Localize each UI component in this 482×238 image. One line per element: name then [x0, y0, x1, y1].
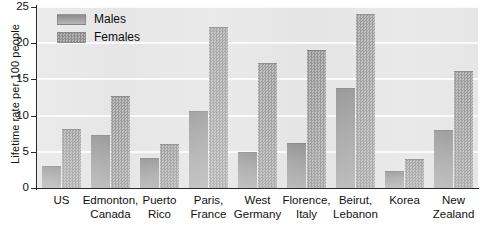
bar-males-8 — [434, 130, 454, 188]
y-tick-mark — [31, 152, 36, 153]
gridline — [37, 7, 478, 8]
y-tick-label: 5 — [0, 146, 29, 158]
legend-label-females: Females — [94, 31, 140, 43]
bar-females-0 — [62, 129, 82, 188]
females-swatch-icon — [57, 32, 86, 43]
legend-item-females: Females — [57, 29, 140, 45]
bar-males-7 — [385, 171, 405, 188]
bar-females-2 — [160, 144, 180, 188]
bar-females-1 — [111, 96, 131, 188]
y-tick-label: 0 — [0, 182, 29, 194]
y-tick-label: 20 — [0, 37, 29, 49]
y-tick-mark — [31, 188, 36, 189]
legend-item-males: Males — [57, 11, 140, 27]
bar-females-3 — [209, 27, 229, 188]
y-tick-label: 10 — [0, 110, 29, 122]
bar-males-5 — [287, 143, 307, 188]
bar-males-0 — [42, 166, 62, 188]
bar-males-3 — [189, 111, 209, 188]
males-swatch-icon — [57, 14, 86, 25]
bar-females-5 — [307, 50, 327, 188]
bar-males-6 — [336, 88, 356, 188]
bar-females-8 — [454, 71, 474, 188]
x-axis-label-8: NewZealand — [421, 194, 482, 221]
chart-legend: Males Females — [57, 11, 140, 47]
bar-males-1 — [91, 135, 111, 188]
y-tick-mark — [31, 7, 36, 8]
bar-males-4 — [238, 152, 258, 188]
legend-label-males: Males — [94, 13, 126, 25]
y-tick-label: 15 — [0, 73, 29, 85]
y-tick-mark — [31, 116, 36, 117]
bar-chart: Lifetime rate per 100 people 0510152025 … — [0, 0, 482, 238]
bar-females-7 — [405, 159, 425, 188]
x-axis-line — [33, 188, 479, 189]
bar-males-2 — [140, 158, 160, 188]
bar-females-6 — [356, 14, 376, 188]
y-tick-mark — [31, 43, 36, 44]
x-axis-labels: USEdmonton,CanadaPuertoRicoParis,FranceW… — [37, 194, 478, 234]
y-tick-mark — [31, 79, 36, 80]
bar-females-4 — [258, 63, 278, 188]
y-tick-label: 25 — [0, 1, 29, 13]
